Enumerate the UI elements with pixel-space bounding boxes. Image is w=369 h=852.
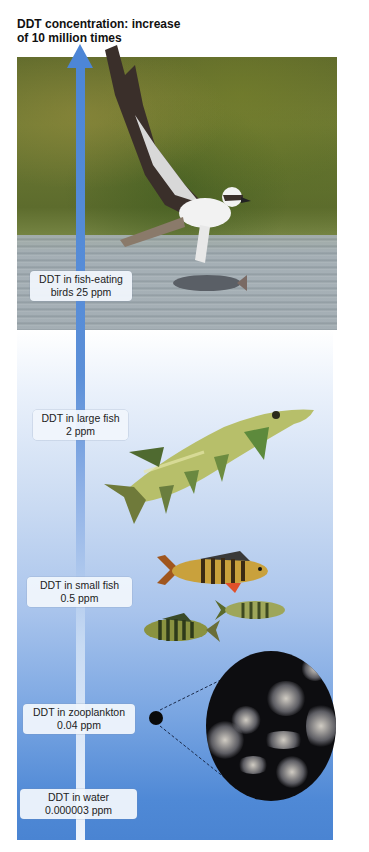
title-line-2: of 10 million times: [17, 31, 217, 45]
diagram-title: DDT concentration: increase of 10 millio…: [17, 17, 217, 45]
zooplankton-organism: [261, 731, 306, 749]
label-birds-line2: birds 25 ppm: [36, 286, 126, 299]
zooplankton-organism: [236, 756, 270, 774]
zooplankton-organism: [306, 701, 336, 751]
zooplankton-organism: [301, 656, 329, 681]
pike-icon: [104, 402, 316, 527]
label-zooplankton: DDT in zooplankton 0.04 ppm: [23, 704, 135, 734]
perch-fish-1-icon: [155, 545, 270, 595]
label-large-fish-line2: 2 ppm: [39, 425, 122, 438]
label-large-fish-line1: DDT in large fish: [39, 412, 122, 425]
label-water-line1: DDT in water: [26, 791, 131, 804]
perch-fish-3-icon: [142, 610, 220, 645]
label-water: DDT in water 0.000003 ppm: [20, 789, 137, 819]
label-zooplankton-line1: DDT in zooplankton: [29, 706, 129, 719]
zooplankton-micrograph: [206, 651, 336, 801]
arrow-up-icon: [67, 44, 93, 68]
title-line-1: DDT concentration: increase: [17, 17, 217, 31]
zooplankton-organism: [276, 756, 308, 788]
label-small-fish-line2: 0.5 ppm: [33, 592, 126, 605]
label-small-fish: DDT in small fish 0.5 ppm: [27, 577, 132, 607]
label-birds: DDT in fish-eating birds 25 ppm: [30, 271, 132, 301]
label-zooplankton-line2: 0.04 ppm: [29, 719, 129, 732]
osprey-icon: [95, 45, 265, 295]
zooplankton-marker-dot: [149, 711, 163, 725]
label-birds-line1: DDT in fish-eating: [36, 273, 126, 286]
perch-fish-2-icon: [215, 598, 287, 623]
label-small-fish-line1: DDT in small fish: [33, 579, 126, 592]
zooplankton-organism: [206, 721, 244, 759]
label-water-line2: 0.000003 ppm: [26, 804, 131, 817]
label-large-fish: DDT in large fish 2 ppm: [33, 410, 128, 440]
zooplankton-organism: [266, 681, 306, 716]
